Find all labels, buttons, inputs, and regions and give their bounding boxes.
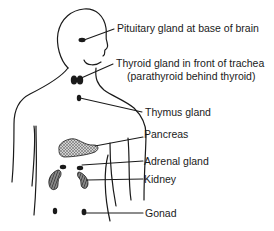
pituitary-leader: [84, 29, 114, 40]
label-gonad: Gonad: [145, 207, 177, 219]
right-arm-inner-outline: [105, 155, 110, 221]
pancreas: [59, 139, 98, 157]
gonad-left: [53, 208, 57, 214]
adrenal-leader: [82, 161, 143, 165]
label-kidney: Kidney: [144, 173, 176, 185]
right-torso-line: [128, 138, 131, 200]
label-adrenal: Adrenal gland: [144, 155, 209, 167]
pancreas-leader: [95, 137, 143, 146]
kidney-left: [49, 170, 61, 190]
label-pancreas: Pancreas: [144, 128, 188, 140]
label-thyroid-line2: (parathyroid behind thyroid): [127, 70, 255, 82]
adrenal-gland-left: [60, 165, 66, 169]
label-pituitary: Pituitary gland at base of brain: [117, 22, 259, 34]
endocrine-diagram: [0, 0, 274, 231]
gonad-right: [82, 209, 87, 215]
adrenal-gland-right: [77, 166, 83, 170]
chin-outline: [84, 60, 101, 65]
thymus-leader: [80, 98, 142, 112]
thyroid-gland: [71, 75, 83, 84]
right-torso-inner-outline: [110, 143, 116, 206]
left-inner-arm-outline: [32, 126, 35, 186]
kidney-right: [78, 172, 89, 188]
kidney-leader: [87, 179, 143, 180]
left-shoulder-outline: [12, 68, 68, 182]
label-thymus: Thymus gland: [145, 106, 211, 118]
label-thyroid-line1: Thyroid gland in front of trachea: [116, 57, 264, 69]
